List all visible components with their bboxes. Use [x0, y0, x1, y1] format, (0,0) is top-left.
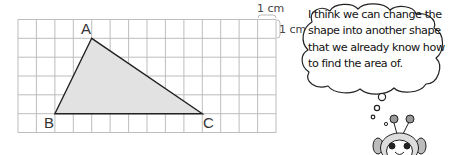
vertex-label-b: B — [44, 114, 54, 131]
bubble-line: that we already know how — [308, 40, 448, 56]
unit-height-label: 1 cm — [279, 23, 306, 36]
vertex-label-c: C — [203, 114, 214, 131]
speech-bubble-text: I think we can change the shape into ano… — [308, 7, 448, 73]
bubble-line: shape into another shape — [308, 23, 448, 39]
robot-mascot-icon — [373, 115, 426, 155]
bubble-line: to find the area of. — [308, 56, 448, 72]
unit-width-label: 1 cm — [257, 2, 284, 15]
width-bracket — [258, 15, 276, 18]
bubble-line: I think we can change the — [308, 7, 448, 23]
vertex-label-a: A — [81, 20, 91, 37]
unit-indicator — [258, 15, 280, 38]
